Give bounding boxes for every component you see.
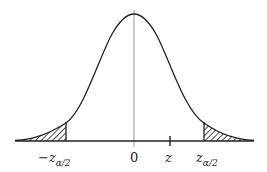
- normal-curve-diagram: [0, 0, 267, 172]
- neg-critical-label: −zα/2: [38, 150, 71, 168]
- right-tail-region: [204, 123, 254, 141]
- left-tail-region: [15, 123, 66, 141]
- z-label: z: [165, 150, 172, 165]
- zero-label: 0: [130, 150, 138, 165]
- pos-critical-label: zα/2: [196, 150, 218, 168]
